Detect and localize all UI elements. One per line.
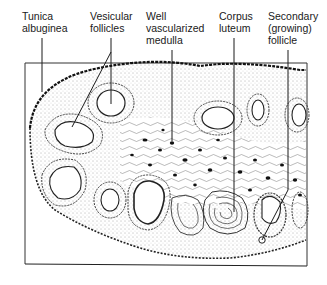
ovary-body: [30, 62, 306, 258]
ovary-illustration: [0, 0, 327, 285]
ovary-diagram: Tunica albuginea Vesicular follicles Wel…: [0, 0, 327, 285]
